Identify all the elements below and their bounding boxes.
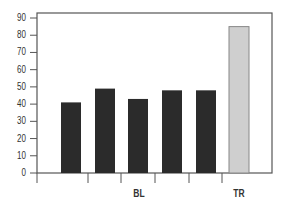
x-label-tr: TR [233, 188, 244, 199]
bar-chart: 0102030405060708090 BL TR [0, 0, 285, 220]
y-tick-label: 80 [7, 30, 26, 40]
y-tick-label: 10 [7, 151, 26, 161]
x-label-bl: BL [133, 188, 144, 199]
plot-area [0, 0, 285, 220]
y-tick-label: 60 [7, 65, 26, 75]
bar-bl-1 [61, 102, 81, 173]
y-tick-label: 30 [7, 116, 26, 126]
y-tick-label: 20 [7, 134, 26, 144]
y-tick-label: 50 [7, 82, 26, 92]
y-tick-label: 40 [7, 99, 26, 109]
y-tick-label: 90 [7, 13, 26, 23]
bar-bl-3 [128, 99, 148, 173]
bar-bl-4 [162, 90, 182, 173]
bar-bl-5 [196, 90, 216, 173]
y-tick-label: 0 [7, 168, 26, 178]
bar-tr [229, 27, 249, 173]
y-tick-label: 70 [7, 47, 26, 57]
bar-bl-2 [95, 89, 115, 173]
